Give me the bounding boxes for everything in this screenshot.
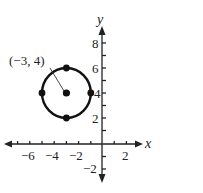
bottom-point <box>63 115 70 122</box>
y-axis-label: y <box>95 12 104 27</box>
x-axis-label: x <box>144 136 152 151</box>
x-tick-label: −4 <box>45 148 59 163</box>
x-tick-label: −6 <box>21 148 35 163</box>
y-axis-down-arrow-icon <box>99 174 106 183</box>
y-axis <box>99 26 107 183</box>
left-point <box>39 90 46 97</box>
center-annotation: (−3, 4) <box>9 53 45 68</box>
x-axis-left-arrow-icon <box>4 141 12 148</box>
right-point <box>87 90 94 97</box>
y-tick-label: 2 <box>92 111 99 126</box>
x-axis <box>4 141 143 148</box>
center-point <box>63 89 70 96</box>
x-tick-label: 2 <box>122 148 129 163</box>
y-tick-label: −2 <box>83 161 97 176</box>
y-axis-up-arrow-icon <box>99 26 106 35</box>
annotation-leader-line <box>50 68 64 91</box>
y-tick-label: 8 <box>92 36 99 51</box>
coordinate-plane: y x −6 −4 −2 2 8 6 4 2 −2 (−3, 4) <box>0 0 203 193</box>
x-tick-label: −2 <box>69 148 83 163</box>
y-tick-label: 6 <box>92 61 99 76</box>
x-axis-right-arrow-icon <box>135 141 143 148</box>
y-tick-label: 4 <box>94 86 101 101</box>
top-point <box>63 65 70 72</box>
